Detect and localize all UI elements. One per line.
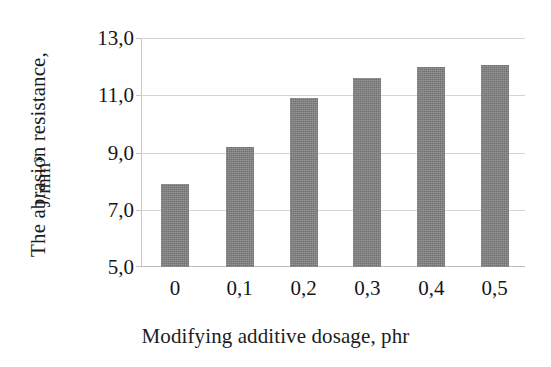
y-axis-tick-labels: 13,0 11,0 9,0 7,0 5,0 [62,0,134,367]
y-axis-units: J/mm3 [31,127,55,237]
plot-area [141,38,525,267]
y-axis-units-text: J/mm [32,163,54,208]
y-tick-label: 5,0 [62,257,134,278]
bar-0p3 [353,78,381,267]
y-tick-label: 9,0 [62,142,134,163]
gridline-9 [141,153,525,154]
bar-0p2 [290,98,318,267]
gridline-11 [141,95,525,96]
x-tick-label: 0,3 [332,278,402,299]
gridline-7 [141,210,525,211]
y-axis-units-exponent: 3 [31,156,45,162]
bar-0p1 [226,147,254,267]
y-tickmark [136,95,141,96]
bar-chart-figure: The abrasion resistance, J/mm3 13,0 11,0… [0,0,551,367]
y-tick-label: 11,0 [62,85,134,106]
x-tick-label: 0,5 [460,278,530,299]
y-tick-label: 7,0 [62,199,134,220]
x-axis-title: Modifying additive dosage, phr [0,324,551,349]
x-axis-tick-labels: 0 0,1 0,2 0,3 0,4 0,5 [141,278,525,308]
gridline-13 [141,38,525,39]
y-tickmark [136,266,141,267]
bar-0p5 [481,65,509,267]
y-tickmark [136,210,141,211]
x-tick-label: 0,4 [396,278,466,299]
y-tick-label: 13,0 [62,28,134,49]
bar-0 [161,184,189,267]
gridline-5-baseline [141,266,525,267]
y-tickmark [136,38,141,39]
x-tick-label: 0,2 [269,278,339,299]
x-tick-label: 0 [140,278,210,299]
x-tick-label: 0,1 [205,278,275,299]
bar-0p4 [417,67,445,268]
y-tickmark [136,153,141,154]
